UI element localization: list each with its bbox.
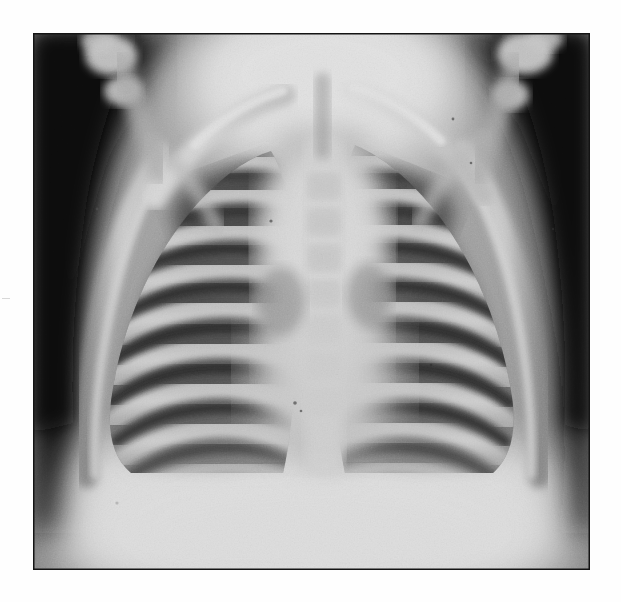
figure-caption [33, 575, 590, 593]
page-margin-top [0, 0, 621, 33]
page-margin-right [590, 0, 621, 602]
radiograph-image [33, 33, 590, 570]
radiograph-canvas [33, 33, 590, 570]
page-margin-left [0, 0, 33, 602]
film-grain [33, 33, 590, 570]
radiograph-page [0, 0, 621, 602]
register-tick-left [2, 298, 10, 299]
